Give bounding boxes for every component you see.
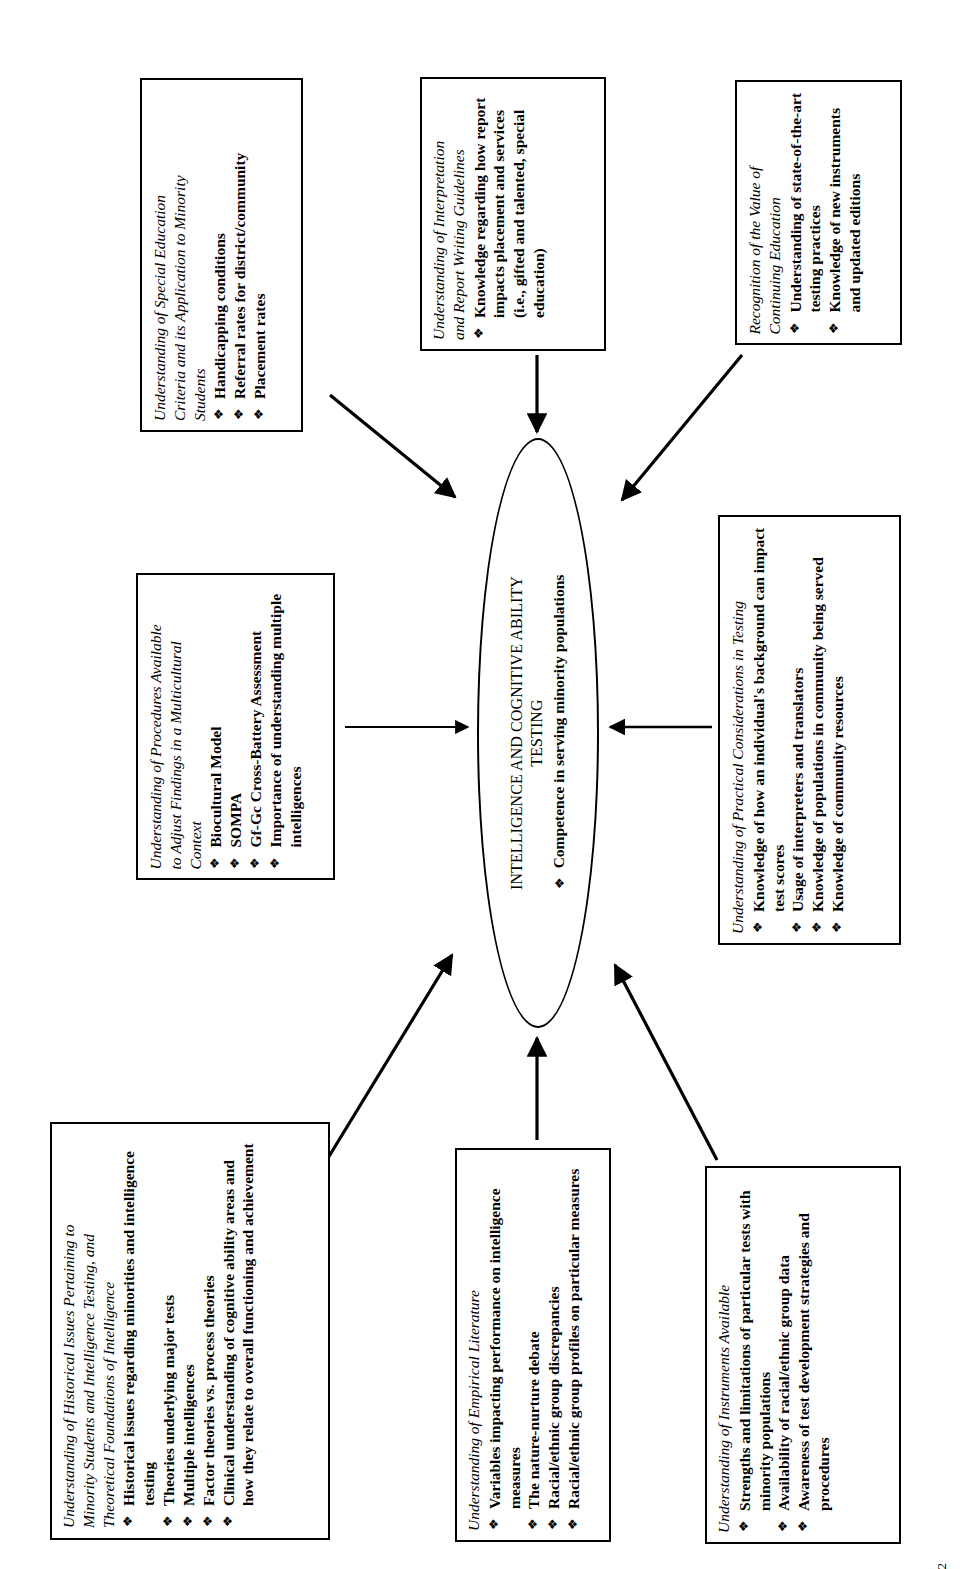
diamond-bullet-icon: ❖ xyxy=(209,408,226,420)
list-item-label: Knowledge of new instruments and updated… xyxy=(825,107,862,312)
list-item: ❖ Variables impacting performance on int… xyxy=(485,1159,525,1531)
list-item-label: Biocultural Model xyxy=(206,726,223,847)
box-empirical-literature[interactable]: Understanding of Empirical Literature ❖ … xyxy=(455,1148,611,1542)
list-item-label: Gf-Gc Cross-Battery Assessment xyxy=(246,630,263,847)
bullet-list: ❖ Knowledge of how an individual's backg… xyxy=(748,526,847,934)
list-item: ❖ Theories underlying major tests xyxy=(159,1134,179,1528)
list-item-label: Availability of racial/ethnic group data xyxy=(775,1255,792,1511)
bullet-list: ❖ Variables impacting performance on int… xyxy=(485,1159,584,1531)
list-item: ❖ Knowledge of populations in community … xyxy=(807,526,827,934)
list-item-label: Importance of understanding multiple int… xyxy=(266,593,303,847)
list-item: ❖ Knowledge of how an individual's backg… xyxy=(748,526,788,934)
arrow-continuing-education-to-center xyxy=(622,355,742,500)
list-item: ❖ Racial/ethnic group discrepancies xyxy=(544,1159,564,1531)
diamond-bullet-icon: ❖ xyxy=(159,1515,176,1527)
list-item-label: SOMPA xyxy=(226,792,243,847)
list-item: ❖ Availability of racial/ethnic group da… xyxy=(774,1177,794,1533)
box-title: Understanding of Practical Consideration… xyxy=(727,526,747,934)
diamond-bullet-icon: ❖ xyxy=(794,1520,811,1532)
list-item: ❖ Usage of interpreters and translators xyxy=(787,526,807,934)
box-procedures-multicultural[interactable]: Understanding of Procedures Available to… xyxy=(136,573,335,880)
box-historical-issues[interactable]: Understanding of Historical Issues Perta… xyxy=(50,1122,330,1540)
list-item-label: Factor theories vs. process theories xyxy=(200,1275,217,1506)
diamond-bullet-icon: ❖ xyxy=(774,1520,791,1532)
list-item: ❖ Clinical understanding of cognitive ab… xyxy=(219,1134,259,1528)
list-item: ❖ Importance of understanding multiple i… xyxy=(265,584,305,869)
bullet-list: ❖ Biocultural Model ❖ SOMPA ❖ Gf-Gc Cros… xyxy=(205,584,304,869)
list-item: ❖ Handicapping conditions xyxy=(209,89,229,421)
list-item: ❖ Placement rates xyxy=(249,89,269,421)
box-title: Understanding of Special Education Crite… xyxy=(149,89,208,421)
central-node-title: INTELLIGENCE AND COGNITIVE ABILITY TESTI… xyxy=(507,443,546,1023)
list-item-label: Theories underlying major tests xyxy=(160,1295,177,1506)
bullet-list: ❖ Handicapping conditions ❖ Referral rat… xyxy=(209,89,268,421)
diamond-bullet-icon: ❖ xyxy=(748,921,765,933)
list-item-label: Racial/ethnic group profiles on particul… xyxy=(565,1169,582,1509)
diamond-bullet-icon: ❖ xyxy=(245,856,262,868)
list-item-label: Knowledge of populations in community be… xyxy=(808,557,825,912)
diamond-bullet-icon: ❖ xyxy=(564,1518,581,1530)
list-item-label: Awareness of test development strategies… xyxy=(795,1213,832,1511)
box-title: Understanding of Historical Issues Perta… xyxy=(59,1134,118,1528)
list-item-label: Understanding of state-of-the-art testin… xyxy=(786,92,823,312)
diamond-bullet-icon: ❖ xyxy=(807,921,824,933)
list-item: ❖ Knowledge regarding how report impacts… xyxy=(470,88,549,340)
diamond-bullet-icon: ❖ xyxy=(199,1515,216,1527)
bullet-list: ❖ Understanding of state-of-the-art test… xyxy=(785,91,864,334)
list-item: ❖ Awareness of test development strategi… xyxy=(794,1177,834,1533)
central-node-bullet-label: Competence in serving minority populatio… xyxy=(550,575,567,869)
list-item-label: Handicapping conditions xyxy=(210,233,227,399)
page-number: 2 xyxy=(933,1563,949,1569)
list-item-label: Clinical understanding of cognitive abil… xyxy=(220,1143,257,1506)
diamond-bullet-icon: ❖ xyxy=(249,408,266,420)
box-interpretation-report-writing[interactable]: Understanding of Interpretation and Repo… xyxy=(420,77,606,351)
list-item-label: Placement rates xyxy=(250,294,267,399)
diamond-bullet-icon: ❖ xyxy=(824,321,841,333)
diamond-bullet-icon: ❖ xyxy=(827,921,844,933)
list-item: ❖ Multiple intelligences xyxy=(179,1134,199,1528)
box-title: Understanding of Interpretation and Repo… xyxy=(429,88,469,340)
box-title: Understanding of Procedures Available to… xyxy=(145,584,204,869)
bullet-list: ❖ Strengths and limitations of particula… xyxy=(735,1177,834,1533)
list-item-label: Knowledge of community resources xyxy=(828,676,845,912)
diamond-bullet-icon: ❖ xyxy=(544,1518,561,1530)
diamond-bullet-icon: ❖ xyxy=(225,856,242,868)
box-instruments-available[interactable]: Understanding of Instruments Available ❖… xyxy=(705,1166,901,1544)
list-item: ❖ Racial/ethnic group profiles on partic… xyxy=(564,1159,584,1531)
list-item: ❖ Understanding of state-of-the-art test… xyxy=(785,91,825,334)
list-item-label: Strengths and limitations of particular … xyxy=(736,1190,773,1511)
list-item: ❖ The nature-nurture debate xyxy=(524,1159,544,1531)
list-item-label: Knowledge regarding how report impacts p… xyxy=(471,98,547,318)
bullet-list: ❖ Knowledge regarding how report impacts… xyxy=(470,88,549,340)
diamond-bullet-icon: ❖ xyxy=(219,1515,236,1527)
box-special-education[interactable]: Understanding of Special Education Crite… xyxy=(140,78,303,432)
diamond-bullet-icon: ❖ xyxy=(524,1518,541,1530)
diamond-bullet-icon: ❖ xyxy=(785,321,802,333)
central-node-bullet: ❖Competence in serving minority populati… xyxy=(549,443,568,1023)
central-node-intelligence-testing[interactable]: INTELLIGENCE AND COGNITIVE ABILITY TESTI… xyxy=(477,438,599,1028)
diamond-bullet-icon: ❖ xyxy=(470,327,487,339)
box-practical-considerations[interactable]: Understanding of Practical Consideration… xyxy=(718,515,901,945)
box-title: Understanding of Instruments Available xyxy=(714,1177,734,1533)
box-continuing-education[interactable]: Recognition of the Value of Continuing E… xyxy=(735,80,902,345)
diamond-bullet-icon: ❖ xyxy=(787,921,804,933)
list-item: ❖ SOMPA xyxy=(225,584,245,869)
diamond-bullet-icon: ❖ xyxy=(179,1515,196,1527)
list-item-label: Usage of interpreters and translators xyxy=(788,668,805,912)
list-item: ❖ Knowledge of community resources xyxy=(827,526,847,934)
diamond-bullet-icon: ❖ xyxy=(205,856,222,868)
box-title: Understanding of Empirical Literature xyxy=(464,1159,484,1531)
diamond-bullet-icon: ❖ xyxy=(265,856,282,868)
list-item: ❖ Strengths and limitations of particula… xyxy=(735,1177,775,1533)
arrow-special-education-to-center xyxy=(330,395,455,497)
list-item: ❖ Referral rates for district/community xyxy=(229,89,249,421)
bullet-list: ❖ Historical issues regarding minorities… xyxy=(119,1134,258,1528)
list-item-label: The nature-nurture debate xyxy=(525,1331,542,1509)
list-item: ❖ Gf-Gc Cross-Battery Assessment xyxy=(245,584,265,869)
diamond-bullet-icon: ❖ xyxy=(229,408,246,420)
list-item-label: Variables impacting performance on intel… xyxy=(486,1188,523,1509)
list-item: ❖ Factor theories vs. process theories xyxy=(199,1134,219,1528)
list-item-label: Racial/ethnic group discrepancies xyxy=(545,1287,562,1509)
arrow-historical-to-center xyxy=(328,955,452,1158)
list-item: ❖ Knowledge of new instruments and updat… xyxy=(824,91,864,334)
